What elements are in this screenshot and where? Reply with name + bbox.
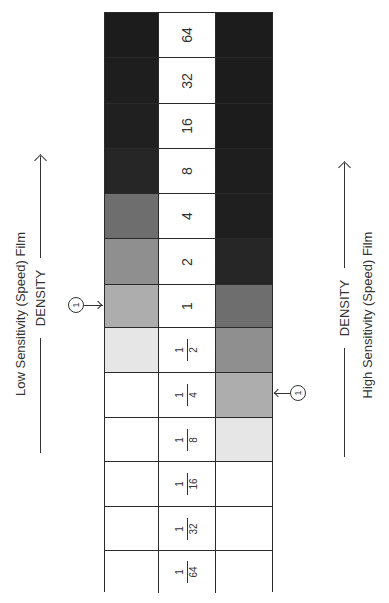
left-marker-number: 1: [72, 302, 81, 307]
low-film-density-swatch: [105, 507, 159, 551]
fraction-denominator: 4: [188, 390, 200, 400]
exposure-fraction: 14: [175, 384, 199, 406]
fraction-numerator: 1: [175, 524, 187, 534]
low-film-density-swatch: [105, 104, 159, 149]
fraction-denominator: 2: [188, 345, 200, 355]
fraction-numerator: 1: [175, 345, 187, 355]
exposure-value-cell: 116: [159, 462, 216, 507]
low-film-density-swatch: [105, 13, 159, 58]
right-marker-arrow-head-icon: [274, 389, 282, 397]
exposure-value-cell: 12: [159, 328, 216, 373]
exposure-fraction: 164: [175, 561, 199, 583]
low-film-density-swatch: [105, 239, 159, 285]
table-row: 32: [105, 58, 272, 104]
low-film-density-swatch: [105, 194, 159, 239]
table-row: 12: [105, 328, 272, 373]
exposure-value: 12: [175, 339, 199, 361]
fraction-denominator: 8: [188, 435, 200, 445]
high-film-density-swatch: [216, 328, 272, 373]
density-table: 6432168421121418116132164: [104, 12, 273, 592]
exposure-value: 4: [180, 212, 194, 220]
table-row: 64: [105, 13, 272, 58]
exposure-value: 32: [180, 73, 194, 89]
exposure-value-cell: 16: [159, 104, 216, 149]
table-row: 132: [105, 507, 272, 551]
low-film-density-swatch: [105, 551, 159, 593]
exposure-value-cell: 4: [159, 194, 216, 239]
fraction-denominator: 16: [188, 476, 200, 491]
table-row: 164: [105, 551, 272, 593]
table-row: 18: [105, 418, 272, 462]
exposure-fraction: 18: [175, 429, 199, 451]
exposure-value: 164: [175, 561, 199, 583]
exposure-value-cell: 2: [159, 239, 216, 285]
table-row: 1: [105, 285, 272, 328]
fraction-denominator: 32: [188, 521, 200, 536]
exposure-fraction: 132: [175, 518, 199, 540]
exposure-value-cell: 8: [159, 149, 216, 194]
high-film-density-swatch: [216, 285, 272, 328]
low-sensitivity-film-caption: Low Sensitivity (Speed) Film: [13, 232, 28, 396]
right-density-label: DENSITY: [337, 280, 352, 336]
high-film-density-swatch: [216, 149, 272, 194]
left-density-arrow-head-icon: [34, 154, 47, 167]
left-marker-arrow-head-icon: [94, 301, 102, 309]
exposure-value-cell: 32: [159, 58, 216, 104]
table-row: 16: [105, 104, 272, 149]
exposure-value: 16: [180, 118, 194, 134]
table-row: 2: [105, 239, 272, 285]
high-film-density-swatch: [216, 58, 272, 104]
fraction-numerator: 1: [175, 390, 187, 400]
table-row: 8: [105, 149, 272, 194]
exposure-value: 18: [175, 429, 199, 451]
high-film-density-swatch: [216, 373, 272, 418]
exposure-value: 1: [180, 302, 194, 310]
low-film-density-swatch: [105, 373, 159, 418]
high-film-density-swatch: [216, 551, 272, 593]
exposure-value: 64: [180, 27, 194, 43]
low-film-density-swatch: [105, 418, 159, 462]
low-film-density-swatch: [105, 58, 159, 104]
exposure-value: 14: [175, 384, 199, 406]
fraction-denominator: 64: [188, 564, 200, 579]
fraction-numerator: 1: [175, 567, 187, 577]
low-film-density-swatch: [105, 149, 159, 194]
exposure-value-cell: 132: [159, 507, 216, 551]
low-film-density-swatch: [105, 285, 159, 328]
left-density-label: DENSITY: [33, 270, 48, 326]
exposure-value-cell: 18: [159, 418, 216, 462]
table-row: 116: [105, 462, 272, 507]
left-marker-circle: 1: [68, 297, 84, 313]
exposure-value-cell: 64: [159, 13, 216, 58]
high-film-density-swatch: [216, 462, 272, 507]
exposure-value-cell: 164: [159, 551, 216, 593]
right-density-arrow-head-icon: [338, 161, 351, 174]
high-film-density-swatch: [216, 104, 272, 149]
exposure-value-cell: 1: [159, 285, 216, 328]
fraction-numerator: 1: [175, 479, 187, 489]
high-sensitivity-film-caption: High Sensitivity (Speed) Film: [360, 232, 375, 399]
exposure-value: 132: [175, 518, 199, 540]
low-film-density-swatch: [105, 462, 159, 507]
high-film-density-swatch: [216, 13, 272, 58]
exposure-value: 2: [180, 258, 194, 266]
exposure-fraction: 12: [175, 339, 199, 361]
exposure-value-cell: 14: [159, 373, 216, 418]
table-row: 14: [105, 373, 272, 418]
high-film-density-swatch: [216, 239, 272, 285]
high-film-density-swatch: [216, 418, 272, 462]
low-film-density-swatch: [105, 328, 159, 373]
fraction-numerator: 1: [175, 435, 187, 445]
exposure-fraction: 116: [175, 473, 199, 495]
table-row: 4: [105, 194, 272, 239]
high-film-density-swatch: [216, 194, 272, 239]
exposure-value: 116: [175, 473, 199, 495]
right-marker-number: 1: [294, 390, 303, 395]
exposure-value: 8: [180, 167, 194, 175]
right-marker-circle: 1: [290, 385, 306, 401]
high-film-density-swatch: [216, 507, 272, 551]
